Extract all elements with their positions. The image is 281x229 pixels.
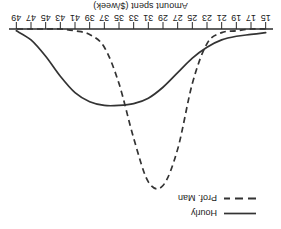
x-axis-tick-label: 49 bbox=[8, 13, 24, 23]
x-axis-tick-label: 43 bbox=[52, 13, 68, 23]
x-axis-tick-label: 47 bbox=[23, 13, 39, 23]
x-axis-tick-label: 37 bbox=[96, 13, 112, 23]
legend-label-prof-man: Prof. Man bbox=[178, 194, 223, 204]
x-axis-tick-label: 39 bbox=[82, 13, 98, 23]
x-axis-ticks bbox=[16, 22, 265, 29]
series-line-hourly bbox=[16, 31, 265, 106]
legend-item-hourly: Hourly bbox=[149, 206, 257, 221]
x-axis-tick-label: 41 bbox=[67, 13, 83, 23]
x-axis-tick-label: 29 bbox=[155, 13, 171, 23]
x-axis-tick-label: 35 bbox=[111, 13, 127, 23]
legend-label-hourly: Hourly bbox=[191, 209, 223, 219]
x-axis-tick-label: 19 bbox=[228, 13, 244, 23]
chart-container: 151719212325272931333537394143454749 Amo… bbox=[0, 0, 281, 229]
x-axis-tick-label: 23 bbox=[199, 13, 215, 23]
series-line-prof-man bbox=[16, 29, 265, 189]
legend-solid-line-icon bbox=[223, 208, 257, 219]
x-axis-tick-label: 15 bbox=[258, 13, 274, 23]
x-axis-tick-label: 21 bbox=[214, 13, 230, 23]
x-axis-tick-label: 17 bbox=[243, 13, 259, 23]
legend-dashed-line-icon bbox=[223, 193, 257, 204]
x-axis-tick-label: 27 bbox=[170, 13, 186, 23]
x-axis-tick-label: 31 bbox=[140, 13, 156, 23]
x-axis-tick-label: 33 bbox=[126, 13, 142, 23]
x-axis-tick-label: 25 bbox=[184, 13, 200, 23]
x-axis-title: Amount spent ($/week) bbox=[0, 1, 281, 11]
chart-legend: Hourly Prof. Man bbox=[149, 191, 257, 221]
x-axis-tick-label: 45 bbox=[38, 13, 54, 23]
legend-item-prof-man: Prof. Man bbox=[149, 191, 257, 206]
